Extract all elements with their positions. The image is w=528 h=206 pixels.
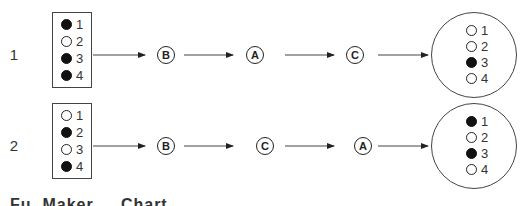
filled-dot-icon (61, 19, 72, 30)
pin-number: 2 (76, 34, 83, 49)
caption-text: Fu. Maker ... Chart (10, 196, 168, 206)
row-label-2: 2 (4, 137, 24, 154)
input-pin: 2 (61, 34, 83, 49)
filled-dot-icon (466, 148, 477, 159)
empty-dot-icon (466, 132, 477, 143)
input-pin: 3 (61, 142, 83, 157)
pin-number: 1 (76, 17, 83, 32)
pin-number: 2 (481, 130, 488, 145)
pin-number: 3 (481, 55, 488, 70)
pin-number: 3 (76, 51, 83, 66)
input-pin: 3 (61, 51, 83, 66)
pin-number: 1 (76, 108, 83, 123)
filled-dot-icon (61, 53, 72, 64)
output-pin: 4 (466, 162, 488, 177)
pin-number: 2 (481, 39, 488, 54)
filled-dot-icon (466, 57, 477, 68)
row2-step-3: A (354, 137, 372, 155)
pin-number: 3 (76, 142, 83, 157)
input-pin: 1 (61, 17, 83, 32)
pin-number: 4 (481, 71, 488, 86)
row2-input-box: 1 2 3 4 (52, 103, 92, 179)
pin-number: 2 (76, 125, 83, 140)
pin-number: 4 (76, 68, 83, 83)
filled-dot-icon (61, 70, 72, 81)
input-pin: 2 (61, 125, 83, 140)
input-pin: 4 (61, 159, 83, 174)
empty-dot-icon (466, 164, 477, 175)
row1-step-3: C (346, 46, 364, 64)
row1-output-circle: 1 2 3 4 (431, 12, 517, 98)
empty-dot-icon (466, 73, 477, 84)
row1-step-2: A (246, 46, 264, 64)
output-pin: 2 (466, 39, 488, 54)
row2-step-1: B (157, 137, 175, 155)
filled-dot-icon (466, 116, 477, 127)
row1-step-1: B (157, 46, 175, 64)
row2-output-circle: 1 2 3 4 (431, 103, 517, 189)
empty-dot-icon (466, 41, 477, 52)
empty-dot-icon (61, 110, 72, 121)
output-pin: 2 (466, 130, 488, 145)
empty-dot-icon (61, 144, 72, 155)
pin-number: 4 (76, 159, 83, 174)
output-pin: 3 (466, 55, 488, 70)
pin-number: 1 (481, 23, 488, 38)
pin-number: 3 (481, 146, 488, 161)
pin-number: 1 (481, 114, 488, 129)
row-label-1: 1 (4, 46, 24, 63)
output-pin: 1 (466, 114, 488, 129)
input-pin: 4 (61, 68, 83, 83)
output-pin: 4 (466, 71, 488, 86)
input-pin: 1 (61, 108, 83, 123)
output-pin: 1 (466, 23, 488, 38)
row2-step-2: C (256, 137, 274, 155)
pin-number: 4 (481, 162, 488, 177)
row1-input-box: 1 2 3 4 (52, 12, 92, 88)
empty-dot-icon (466, 25, 477, 36)
filled-dot-icon (61, 127, 72, 138)
filled-dot-icon (61, 161, 72, 172)
output-pin: 3 (466, 146, 488, 161)
empty-dot-icon (61, 36, 72, 47)
